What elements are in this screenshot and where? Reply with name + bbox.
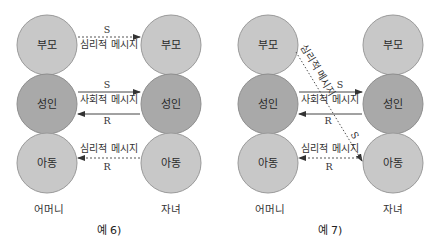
diagram-example-7: 부모 성인 아동 부모 성인 아동 심리적 메시지 S S 사회적 메시지 R …	[238, 15, 423, 237]
mid-s-label-7: S	[337, 79, 344, 90]
child-child-label: 아동	[161, 157, 181, 170]
mid-r-label-7: R	[324, 115, 332, 126]
child-label-7: 자녀	[383, 203, 403, 215]
mother-child-label-7: 아동	[258, 157, 278, 170]
mother-ego-states: 부모 성인 아동	[17, 15, 77, 193]
mother-label-7: 어머니	[255, 203, 285, 215]
diagonal-s-label: S	[349, 130, 362, 141]
mother-parent-label-7: 부모	[258, 39, 278, 52]
mid-social-message-label: 사회적 메시지	[80, 94, 137, 105]
child-parent-label-7: 부모	[383, 39, 403, 52]
bot-r-label-7: R	[325, 161, 333, 172]
mother-parent-label: 부모	[37, 39, 57, 52]
example-6-caption: 예 6)	[97, 224, 122, 237]
mid-social-message-label-7: 사회적 메시지	[301, 94, 358, 105]
transactional-analysis-diagrams: 부모 성인 아동 부모 성인 아동 S 심리적 메시지 S 사회적 메시지 R …	[0, 0, 433, 239]
example-7-caption: 예 7)	[318, 224, 343, 237]
bot-psych-message-label-7: 심리적 메시지	[301, 143, 358, 154]
mother-child-label: 아동	[37, 157, 57, 170]
child-ego-states-7: 부모 성인 아동	[363, 15, 423, 193]
child-label: 자녀	[161, 203, 181, 215]
diagonal-psych-message-label: 심리적 메시지	[299, 43, 338, 98]
child-adult-label: 성인	[161, 98, 181, 111]
mother-adult-label-7: 성인	[258, 98, 278, 111]
mid-s-label: S	[104, 79, 111, 90]
mother-adult-label: 성인	[37, 98, 57, 111]
child-parent-label: 부모	[161, 39, 181, 52]
child-adult-label-7: 성인	[383, 98, 403, 111]
bot-psych-message-label: 심리적 메시지	[80, 143, 137, 154]
mother-label: 어머니	[34, 203, 64, 215]
child-ego-states: 부모 성인 아동	[141, 15, 201, 193]
child-child-label-7: 아동	[383, 157, 403, 170]
diagram-example-6: 부모 성인 아동 부모 성인 아동 S 심리적 메시지 S 사회적 메시지 R …	[17, 15, 201, 237]
mother-ego-states-7: 부모 성인 아동	[238, 15, 298, 193]
bot-r-label: R	[103, 161, 111, 172]
top-psych-message-label: 심리적 메시지	[80, 39, 137, 50]
top-s-label: S	[104, 24, 111, 35]
mid-r-label: R	[103, 115, 111, 126]
